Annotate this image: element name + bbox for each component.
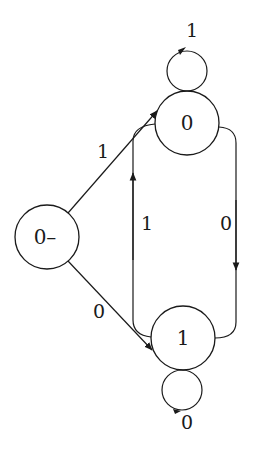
edge-s0-to-s1-label: 0 — [220, 212, 232, 234]
node-s0-label: 0 — [181, 111, 194, 135]
edge-s1-to-s0-label: 1 — [141, 212, 153, 234]
edge-s1-to-s0: 1 — [133, 124, 155, 337]
edge-s1-loop-label: 0 — [181, 411, 193, 433]
edge-start-to-s1-label: 0 — [93, 300, 105, 322]
node-s1-label: 1 — [177, 326, 190, 350]
state-diagram: 0– 0 1 1 0 1 0 0 1 — [0, 0, 258, 457]
node-start: 0– — [15, 205, 79, 269]
node-start-label: 0– — [34, 225, 57, 249]
edge-s0-to-s1: 0 — [215, 127, 236, 338]
edge-s0-loop-label: 1 — [186, 19, 198, 41]
edge-s1-loop: 0 — [162, 370, 202, 433]
edge-start-to-s1: 0 — [68, 261, 152, 350]
edge-start-to-s0-label: 1 — [97, 140, 109, 162]
edge-s0-loop: 1 — [167, 19, 207, 91]
node-s1: 1 — [151, 306, 215, 370]
node-s0: 0 — [155, 91, 219, 155]
